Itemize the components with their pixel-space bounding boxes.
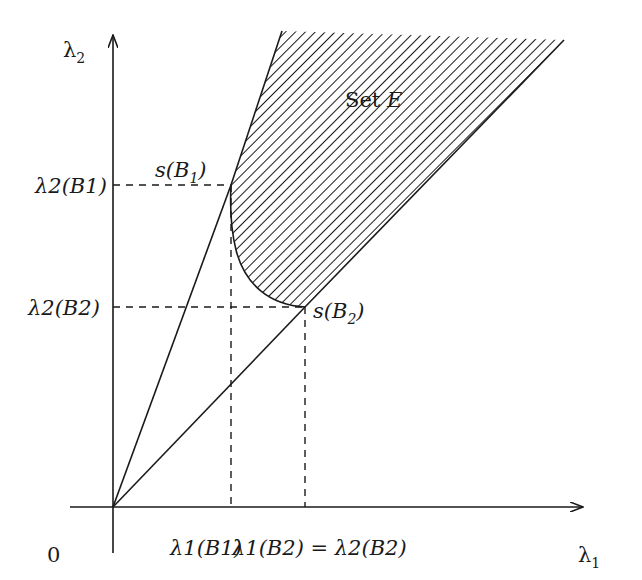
origin-label: 0 [47,543,60,567]
x-tick-label-b2: λ1(B2) = λ2(B2) [231,536,407,560]
y-axis-label: λ2 [63,38,85,66]
set-e-region [231,31,564,307]
x-tick-label-b1: λ1(B1) [169,536,242,560]
point-label-s-b1: s(B1) [155,158,207,186]
set-e-label: Set E [345,88,402,112]
ray-to-s-b2 [113,307,305,507]
x-axis-label: λ1 [578,543,600,571]
diagram-canvas: λ2 λ1 0 Set E s(B1) s(B2) λ2(B1) λ2(B2) … [0,0,642,580]
point-label-s-b2: s(B2) [313,299,365,327]
y-tick-label-b1: λ2(B1) [34,174,107,198]
y-tick-label-b2: λ2(B2) [27,296,100,320]
ray-to-s-b1 [113,185,231,507]
